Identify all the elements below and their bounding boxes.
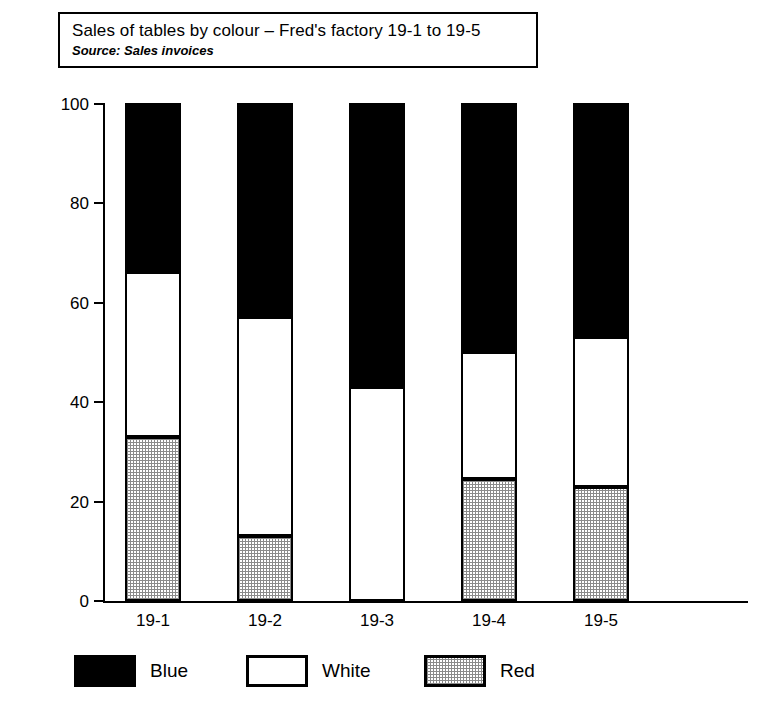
bar-19-3 (349, 103, 405, 601)
y-axis-line (103, 103, 105, 603)
bar-segment-white (237, 317, 293, 536)
plot-area: 100 80 60 40 20 0 Tables sold % 19-1 19-… (103, 103, 748, 601)
chart-legend: Blue White Red (74, 655, 634, 701)
y-tick-100 (94, 103, 103, 105)
chart-title-box: Sales of tables by colour – Fred's facto… (58, 12, 538, 68)
chart-title: Sales of tables by colour – Fred's facto… (72, 20, 526, 41)
bar-segment-white (349, 387, 405, 601)
bar-segment-blue (461, 103, 517, 352)
legend-item-red: Red (424, 655, 535, 687)
legend-label-red: Red (500, 660, 535, 682)
bar-segment-blue (573, 103, 629, 337)
y-tick-40 (94, 401, 103, 403)
legend-swatch-white-icon (246, 655, 308, 687)
bar-segment-red (573, 487, 629, 602)
y-tick-80 (94, 202, 103, 204)
y-tick-label-100: 100 (61, 96, 89, 113)
y-tick-labels: 100 80 60 40 20 0 (23, 89, 89, 615)
x-tick-label-19-1: 19-1 (125, 611, 181, 631)
legend-item-blue: Blue (74, 655, 188, 687)
x-tick-label-19-2: 19-2 (237, 611, 293, 631)
legend-label-blue: Blue (150, 660, 188, 682)
legend-item-white: White (246, 655, 371, 687)
y-tick-label-0: 0 (80, 593, 89, 610)
bar-segment-red (125, 437, 181, 601)
legend-swatch-red-icon (424, 655, 486, 687)
bar-segment-blue (125, 103, 181, 272)
bar-segment-blue (237, 103, 293, 317)
legend-swatch-blue-icon (74, 655, 136, 687)
x-tick-label-19-3: 19-3 (349, 611, 405, 631)
chart-subtitle: Source: Sales invoices (72, 42, 526, 60)
y-tick-0 (94, 600, 103, 602)
x-tick-label-19-4: 19-4 (461, 611, 517, 631)
bar-19-4 (461, 103, 517, 601)
x-tick-label-19-5: 19-5 (573, 611, 629, 631)
y-tick-20 (94, 501, 103, 503)
bar-19-5 (573, 103, 629, 601)
bar-segment-white (461, 352, 517, 479)
legend-label-white: White (322, 660, 371, 682)
bar-segment-red (237, 536, 293, 601)
y-tick-60 (94, 302, 103, 304)
bar-segment-blue (349, 103, 405, 387)
bar-segment-red (461, 479, 517, 601)
bar-segment-white (125, 272, 181, 436)
y-tick-label-40: 40 (70, 394, 89, 411)
x-axis-line (103, 601, 748, 603)
y-tick-label-80: 80 (70, 195, 89, 212)
bar-19-2 (237, 103, 293, 601)
y-axis-title: Tables sold % (0, 294, 2, 411)
y-tick-label-20: 20 (70, 494, 89, 511)
chart-figure: Sales of tables by colour – Fred's facto… (0, 0, 765, 724)
bar-segment-white (573, 337, 629, 486)
y-tick-label-60: 60 (70, 295, 89, 312)
bar-19-1 (125, 103, 181, 601)
